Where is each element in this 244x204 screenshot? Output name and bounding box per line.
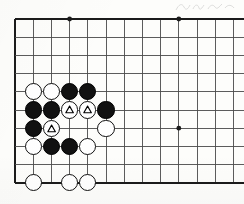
white-stone-b0[interactable] [25,174,42,191]
black-stone-c2[interactable] [43,138,60,155]
black-stone-c4[interactable] [43,101,60,118]
white-stone-b5[interactable] [25,83,42,100]
white-stone-marked-e4[interactable] [79,101,96,118]
star-point-icon [176,17,181,22]
go-board-figure [0,0,244,204]
white-stone-b2[interactable] [25,138,42,155]
star-point-icon [176,126,181,131]
black-stone-b4[interactable] [25,101,42,118]
white-stone-marked-d4[interactable] [61,101,78,118]
black-stone-f4[interactable] [97,101,114,118]
star-point-icon [67,17,72,22]
black-stone-b3[interactable] [25,120,42,137]
white-stone-f3[interactable] [97,120,114,137]
white-stone-marked-c3[interactable] [43,120,60,137]
black-stone-d2[interactable] [61,138,78,155]
